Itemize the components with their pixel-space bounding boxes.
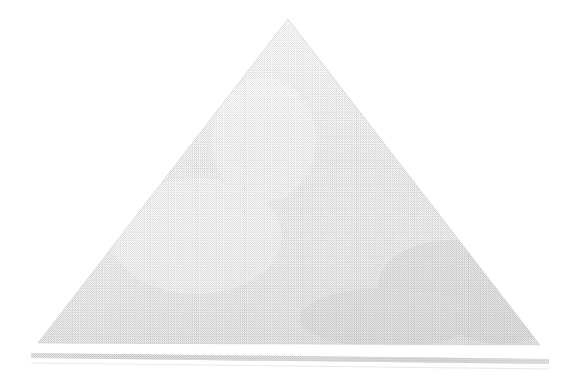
scan-canvas: Halftoned triangle on white ground A lar… [0,0,582,387]
triangle-scan-figure: Halftoned triangle on white ground A lar… [0,0,582,387]
